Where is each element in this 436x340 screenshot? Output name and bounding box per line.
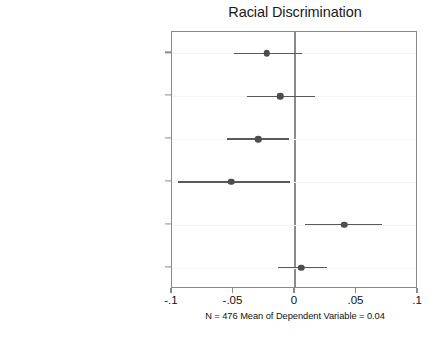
point-estimate-marker[interactable]	[228, 179, 235, 186]
y-axis-tick	[165, 137, 171, 138]
coefficient-plot-figure: Racial Discrimination Nominee of Color, …	[0, 0, 436, 340]
plot-area	[171, 31, 417, 288]
point-estimate-marker[interactable]	[341, 222, 348, 229]
y-axis-tick	[165, 266, 171, 267]
chart-note: N = 476 Mean of Dependent Variable = 0.0…	[171, 311, 419, 321]
zero-reference-line	[294, 32, 295, 287]
row-guide	[172, 139, 416, 140]
x-axis-tick	[170, 288, 171, 293]
x-axis-tick	[293, 288, 294, 293]
y-axis-tick	[165, 223, 171, 224]
plot-inner	[172, 32, 416, 287]
x-axis-tick-label: 0	[291, 294, 297, 306]
x-axis-tick	[232, 288, 233, 293]
x-axis-tick-label: .05	[348, 294, 364, 306]
point-estimate-marker[interactable]	[255, 136, 262, 143]
x-axis-tick-label: .1	[412, 294, 422, 306]
chart-title: Racial Discrimination	[171, 4, 419, 20]
point-estimate-marker[interactable]	[277, 93, 284, 100]
x-axis-tick-label: -.1	[164, 294, 177, 306]
y-axis-tick	[165, 95, 171, 96]
point-estimate-marker[interactable]	[263, 50, 270, 57]
x-axis-tick	[355, 288, 356, 293]
y-axis-tick	[165, 52, 171, 53]
x-axis-tick-label: -.05	[223, 294, 243, 306]
x-axis-tick	[416, 288, 417, 293]
point-estimate-marker[interactable]	[298, 264, 305, 271]
y-axis-tick	[165, 180, 171, 181]
